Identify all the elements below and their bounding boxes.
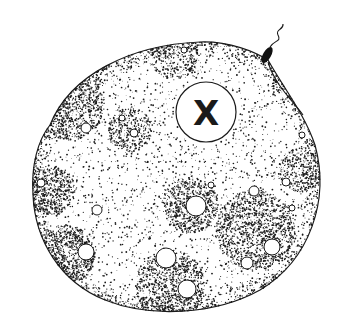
- vacuole: [264, 239, 280, 255]
- nucleus: X: [176, 82, 236, 142]
- vacuole: [119, 115, 125, 121]
- vacuole: [78, 244, 94, 260]
- basal-body: [259, 45, 275, 65]
- vacuole: [249, 186, 259, 196]
- vacuole: [37, 179, 45, 187]
- vacuole: [289, 205, 295, 211]
- vacuole: [130, 129, 138, 137]
- flagellum-tail: [270, 24, 283, 47]
- cell-figure: X: [0, 0, 348, 336]
- vacuole: [299, 132, 305, 138]
- vacuole: [181, 47, 187, 53]
- vacuole: [81, 123, 91, 133]
- vacuole: [156, 248, 176, 268]
- cell-illustration: X: [0, 0, 348, 336]
- flagellum: [259, 24, 303, 115]
- vacuole: [186, 196, 206, 216]
- vacuole: [282, 178, 290, 186]
- vacuole: [208, 182, 214, 188]
- vacuole: [241, 257, 253, 269]
- vacuole: [178, 280, 196, 298]
- vacuole: [92, 205, 102, 215]
- nucleus-label-x: X: [193, 93, 219, 133]
